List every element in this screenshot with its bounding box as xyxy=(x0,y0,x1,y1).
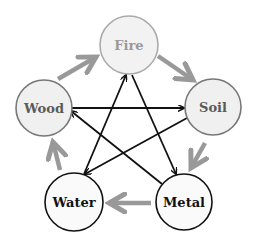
node-water: Water xyxy=(45,173,103,231)
generating-arrow-wood-to-fire xyxy=(58,57,96,79)
node-label-water: Water xyxy=(51,195,95,210)
generating-arrow-water-to-wood xyxy=(53,142,60,170)
node-label-metal: Metal xyxy=(163,195,205,210)
node-soil: Soil xyxy=(185,79,241,135)
overcoming-arrow-water-to-fire xyxy=(84,75,126,174)
node-label-soil: Soil xyxy=(199,100,227,115)
node-label-fire: Fire xyxy=(114,38,143,53)
node-label-wood: Wood xyxy=(23,101,64,116)
generating-arrow-soil-to-metal xyxy=(191,143,205,168)
element-nodes: FireSoilMetalWaterWood xyxy=(16,16,241,231)
overcoming-arrow-fire-to-metal xyxy=(132,75,176,174)
node-wood: Wood xyxy=(16,80,72,136)
overcoming-cycle-arrows xyxy=(71,75,187,184)
node-metal: Metal xyxy=(156,174,212,230)
five-elements-diagram: FireSoilMetalWaterWood xyxy=(0,0,255,251)
generating-arrow-fire-to-soil xyxy=(158,56,193,80)
node-fire: Fire xyxy=(100,16,158,74)
